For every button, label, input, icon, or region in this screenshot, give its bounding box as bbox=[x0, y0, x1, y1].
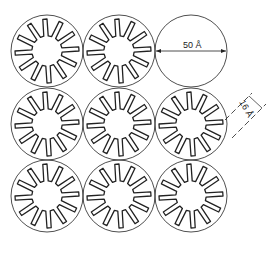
folded-chain bbox=[87, 164, 151, 228]
folded-chain bbox=[87, 19, 151, 83]
folded-chain bbox=[15, 92, 79, 156]
diagram-stage: 50 Å 16 Å bbox=[0, 0, 277, 253]
folded-chain bbox=[15, 164, 79, 228]
folded-chain bbox=[87, 92, 151, 156]
diameter-label: 50 Å bbox=[183, 40, 202, 50]
folded-chain bbox=[159, 164, 223, 228]
folded-chain bbox=[15, 19, 79, 83]
particle-packing-diagram bbox=[0, 0, 277, 253]
folded-chain bbox=[159, 92, 223, 156]
arrowhead-right-icon bbox=[221, 49, 226, 53]
arrowhead-left-icon bbox=[156, 49, 161, 53]
